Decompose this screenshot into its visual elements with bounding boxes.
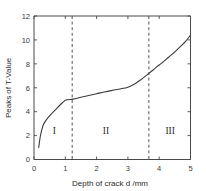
region-divider-lines (72, 16, 149, 160)
x-tick-label: 0 (32, 164, 36, 173)
x-axis-title: Depth of crack d /mm (72, 179, 148, 188)
x-tick-label: 1 (63, 164, 67, 173)
y-tick-label: 0 (26, 155, 30, 164)
region-label-iii: III (165, 126, 175, 136)
x-tick-label: 2 (95, 164, 99, 173)
x-tick-label: 3 (126, 164, 130, 173)
axis-tick-marks (34, 16, 191, 160)
plot-frame (34, 16, 191, 160)
y-tick-label: 6 (26, 84, 30, 93)
y-tick-label: 4 (26, 107, 30, 116)
x-tick-label: 4 (157, 164, 161, 173)
chart-container: 012345 024681012 IIIIII Depth of crack d… (0, 0, 206, 191)
y-tick-label: 8 (26, 60, 30, 69)
y-tick-label: 10 (22, 36, 30, 45)
region-annotations: IIIIII (53, 126, 175, 136)
y-tick-label: 12 (22, 12, 30, 21)
x-tick-label: 5 (188, 164, 192, 173)
peaks-of-t-value-line-chart: 012345 024681012 IIIIII Depth of crack d… (0, 0, 206, 191)
x-axis-tick-labels: 012345 (32, 164, 193, 173)
region-label-ii: II (103, 126, 109, 136)
y-axis-tick-labels: 024681012 (22, 12, 30, 165)
y-tick-label: 2 (26, 131, 30, 140)
y-axis-title: Peaks of T-Value (4, 57, 13, 118)
region-label-i: I (53, 126, 56, 136)
